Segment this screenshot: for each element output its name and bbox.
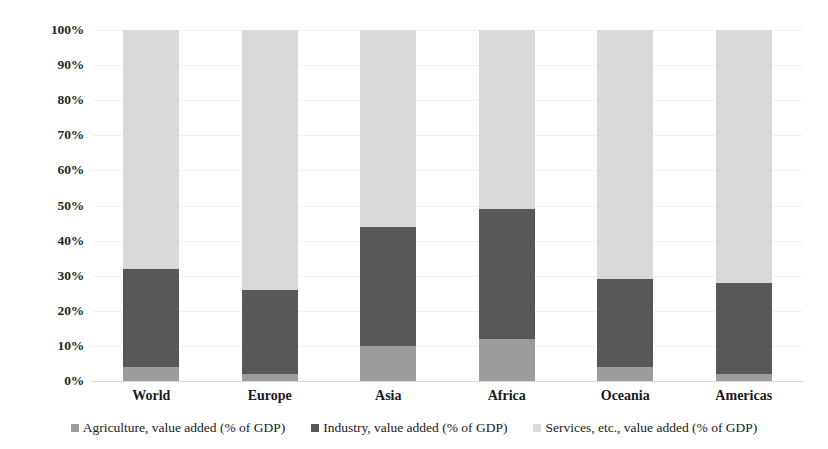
y-tick-label: 50% xyxy=(28,199,84,213)
legend-item-label: Services, etc., value added (% of GDP) xyxy=(545,421,757,435)
y-tick-label: 40% xyxy=(28,234,84,248)
bar-group-americas xyxy=(685,30,804,381)
bar-segment-services xyxy=(360,30,416,227)
y-tick-label: 70% xyxy=(28,128,84,142)
bar-segment-services xyxy=(716,30,772,283)
bar-segment-agriculture xyxy=(360,346,416,381)
bar-segment-agriculture xyxy=(242,374,298,381)
bar-group-oceania xyxy=(566,30,685,381)
x-axis: WorldEuropeAsiaAfricaOceaniaAmericas xyxy=(92,386,803,408)
bar-segment-industry xyxy=(597,279,653,367)
y-tick-label: 20% xyxy=(28,304,84,318)
y-tick-label: 0% xyxy=(28,374,84,388)
chart-legend: Agriculture, value added (% of GDP)Indus… xyxy=(0,416,828,440)
bar-segment-agriculture xyxy=(123,367,179,381)
bar-segment-services xyxy=(123,30,179,269)
legend-swatch-icon xyxy=(71,424,79,432)
bar-segment-industry xyxy=(242,290,298,374)
x-tick-label-asia: Asia xyxy=(329,386,448,406)
bar-segment-industry xyxy=(123,269,179,367)
stacked-bar xyxy=(716,30,772,381)
bar-segment-industry xyxy=(716,283,772,374)
legend-item-label: Industry, value added (% of GDP) xyxy=(323,421,507,435)
stacked-bar xyxy=(242,30,298,381)
legend-item-1[interactable]: Industry, value added (% of GDP) xyxy=(311,421,507,435)
y-tick-label: 90% xyxy=(28,58,84,72)
bar-group-asia xyxy=(329,30,448,381)
legend-item-2[interactable]: Services, etc., value added (% of GDP) xyxy=(533,421,757,435)
stacked-bar xyxy=(597,30,653,381)
x-tick-label-oceania: Oceania xyxy=(566,386,685,406)
bar-group-world xyxy=(92,30,211,381)
bar-group-europe xyxy=(211,30,330,381)
legend-item-label: Agriculture, value added (% of GDP) xyxy=(83,421,285,435)
y-tick-label: 10% xyxy=(28,339,84,353)
x-tick-label-europe: Europe xyxy=(211,386,330,406)
stacked-bar xyxy=(123,30,179,381)
y-tick-label: 30% xyxy=(28,269,84,283)
y-tick-label: 80% xyxy=(28,93,84,107)
bar-segment-agriculture xyxy=(479,339,535,381)
legend-swatch-icon xyxy=(533,424,541,432)
bar-segment-services xyxy=(597,30,653,279)
bar-segment-services xyxy=(479,30,535,209)
bar-segment-agriculture xyxy=(716,374,772,381)
bar-segment-industry xyxy=(360,227,416,346)
bar-segment-industry xyxy=(479,209,535,339)
legend-item-0[interactable]: Agriculture, value added (% of GDP) xyxy=(71,421,285,435)
bar-series-container xyxy=(92,30,803,381)
bar-group-africa xyxy=(448,30,567,381)
stacked-bar xyxy=(479,30,535,381)
legend-swatch-icon xyxy=(311,424,319,432)
x-tick-label-world: World xyxy=(92,386,211,406)
bar-segment-agriculture xyxy=(597,367,653,381)
bar-segment-services xyxy=(242,30,298,290)
y-tick-label: 100% xyxy=(28,23,84,37)
x-tick-label-americas: Americas xyxy=(685,386,804,406)
x-tick-label-africa: Africa xyxy=(448,386,567,406)
y-tick-label: 60% xyxy=(28,163,84,177)
stacked-bar-chart: 100%90%80%70%60%50%40%30%20%10%0% WorldE… xyxy=(0,0,828,449)
axis-baseline xyxy=(92,381,803,382)
y-axis: 100%90%80%70%60%50%40%30%20%10%0% xyxy=(22,30,84,381)
stacked-bar xyxy=(360,30,416,381)
